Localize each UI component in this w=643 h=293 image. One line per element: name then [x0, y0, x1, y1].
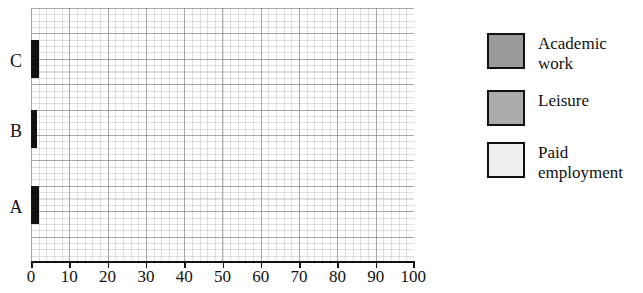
- x-tick-label: 40: [176, 268, 193, 285]
- legend-swatch-paid-employment: [487, 142, 525, 178]
- bar-A-segment-paid-employment: [35, 188, 37, 222]
- bar-A: [31, 186, 39, 224]
- legend-item-leisure: Leisure: [487, 90, 637, 126]
- category-label-C: C: [6, 52, 26, 70]
- legend-item-academic-work: Academic work: [487, 33, 637, 74]
- category-label-A: A: [6, 198, 26, 216]
- x-tick-label: 10: [61, 268, 78, 285]
- category-label-B: B: [6, 122, 26, 140]
- legend-label-academic-work: Academic work: [538, 33, 637, 74]
- legend-swatch-academic-work: [487, 33, 525, 69]
- x-tick-label: 90: [367, 268, 384, 285]
- legend-swatch-leisure: [487, 90, 525, 126]
- legend-label-paid-employment: Paid employment: [538, 142, 637, 183]
- legend-item-paid-employment: Paid employment: [487, 142, 637, 183]
- x-tick-label: 0: [27, 268, 36, 285]
- x-tick-label: 30: [137, 268, 154, 285]
- x-tick-label: 100: [400, 268, 426, 285]
- bar-B-segment-leisure: [33, 112, 35, 146]
- legend-label-leisure: Leisure: [538, 90, 589, 111]
- bar-C: [31, 40, 39, 78]
- x-tick-label: 20: [99, 268, 116, 285]
- bar-C-segment-paid-employment: [35, 42, 37, 76]
- stacked-bar-chart: C B A 0 10 20 30 40 50 60 70 80 90 100 A…: [0, 0, 643, 293]
- plot-area-grid: [31, 8, 414, 262]
- x-tick-label: 60: [252, 268, 269, 285]
- x-tick-label: 80: [329, 268, 346, 285]
- bar-B: [31, 110, 37, 148]
- x-tick-label: 70: [291, 268, 308, 285]
- x-tick-label: 50: [214, 268, 231, 285]
- legend: Academic work Leisure Paid employment: [487, 33, 637, 199]
